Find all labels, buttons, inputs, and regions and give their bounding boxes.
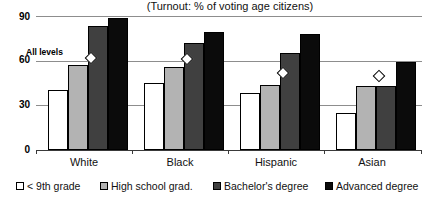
legend-item-bachelors[interactable]: Bachelor's degree [213, 180, 308, 192]
dark-gray-swatch-icon [213, 182, 221, 190]
marker-all-levels-asian[interactable] [373, 69, 386, 82]
bar-black-advanced[interactable] [204, 32, 224, 150]
bar-hispanic-lt9th[interactable] [240, 93, 260, 150]
bar-asian-advanced[interactable] [396, 62, 416, 150]
x-tick-3 [324, 150, 325, 154]
light-gray-swatch-icon [100, 182, 108, 190]
plot-area [36, 16, 422, 150]
chart-title: (Turnout: % of voting age citizens) [110, 0, 350, 12]
x-category-label-black: Black [167, 156, 194, 168]
bar-group-black [144, 16, 230, 150]
y-tick-label-0: 0 [0, 144, 30, 155]
bar-asian-highschool[interactable] [356, 86, 376, 150]
bar-asian-bachelors[interactable] [376, 86, 396, 150]
x-tick-2 [228, 150, 229, 154]
bar-white-bachelors[interactable] [88, 26, 108, 150]
chart-legend: < 9th grade High school grad. Bachelor's… [0, 180, 432, 196]
x-tick-0 [36, 150, 37, 154]
bar-group-white [48, 16, 134, 150]
x-axis-line [36, 150, 422, 151]
legend-item-advanced[interactable]: Advanced degree [325, 180, 418, 192]
x-category-label-asian: Asian [358, 156, 386, 168]
x-tick-1 [132, 150, 133, 154]
y-tick-label-30: 30 [0, 99, 30, 110]
white-swatch-icon [16, 182, 24, 190]
black-swatch-icon [325, 182, 333, 190]
bar-asian-lt9th[interactable] [336, 113, 356, 150]
legend-label-lt9th: < 9th grade [27, 180, 80, 192]
legend-label-advanced: Advanced degree [336, 180, 418, 192]
bar-white-highschool[interactable] [68, 65, 88, 150]
x-category-label-white: White [70, 156, 98, 168]
bar-white-advanced[interactable] [108, 18, 128, 151]
bar-group-asian [336, 16, 422, 150]
y-tick-label-90: 90 [0, 11, 30, 22]
legend-item-highschool[interactable]: High school grad. [100, 180, 193, 192]
x-category-label-hispanic: Hispanic [255, 156, 297, 168]
legend-label-highschool: High school grad. [111, 180, 193, 192]
bar-black-lt9th[interactable] [144, 83, 164, 150]
x-tick-4 [421, 150, 422, 154]
bar-group-hispanic [240, 16, 326, 150]
bar-hispanic-highschool[interactable] [260, 85, 280, 151]
legend-label-bachelors: Bachelor's degree [224, 180, 308, 192]
bar-black-highschool[interactable] [164, 67, 184, 150]
chart-container: (Turnout: % of voting age citizens) 90 6… [0, 0, 432, 202]
bar-hispanic-advanced[interactable] [300, 34, 320, 150]
bar-white-lt9th[interactable] [48, 90, 68, 150]
legend-item-lt9th[interactable]: < 9th grade [16, 180, 80, 192]
